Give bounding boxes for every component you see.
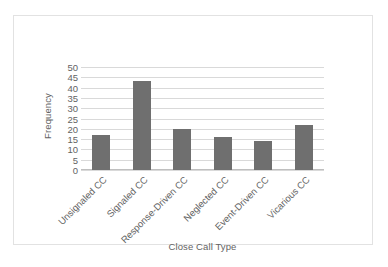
x-axis-tick-label: Unsignaled CC <box>56 174 109 227</box>
y-axis-tick-label: 15 <box>56 135 78 144</box>
x-axis-title: Close Call Type <box>81 241 324 252</box>
bar-slot <box>284 67 325 170</box>
bar-slot <box>81 67 122 170</box>
bar <box>214 137 232 170</box>
plot-area <box>81 67 324 170</box>
bar-slot <box>203 67 244 170</box>
y-axis-tick-label: 0 <box>56 166 78 175</box>
gridline <box>81 170 324 171</box>
y-axis-tick-label: 10 <box>56 145 78 154</box>
y-axis-title: Frequency <box>42 76 56 156</box>
y-axis-tick-label: 45 <box>56 73 78 82</box>
y-axis-tick-label: 30 <box>56 104 78 113</box>
bar-slot <box>122 67 163 170</box>
bar <box>173 129 191 170</box>
y-axis-tick-label: 40 <box>56 83 78 92</box>
bar <box>254 141 272 170</box>
bar-series <box>81 67 324 170</box>
y-axis-tick-label: 25 <box>56 114 78 123</box>
bar-slot <box>162 67 203 170</box>
bar-slot <box>243 67 284 170</box>
y-axis-tick-label: 35 <box>56 93 78 102</box>
y-axis-tick-label: 5 <box>56 155 78 164</box>
chart-figure-frame: Frequency 05101520253035404550 Unsignale… <box>13 15 373 245</box>
y-axis-tick-label: 20 <box>56 124 78 133</box>
y-axis-tick-labels: 05101520253035404550 <box>56 62 78 170</box>
bar <box>92 135 110 170</box>
bar <box>133 81 151 170</box>
y-axis-tick-label: 50 <box>56 63 78 72</box>
x-axis-tick-slot: Vicarious CC <box>284 172 325 230</box>
x-axis-tick-labels: Unsignaled CCSignaled CCResponse-Driven … <box>81 172 324 230</box>
bar <box>295 125 313 170</box>
